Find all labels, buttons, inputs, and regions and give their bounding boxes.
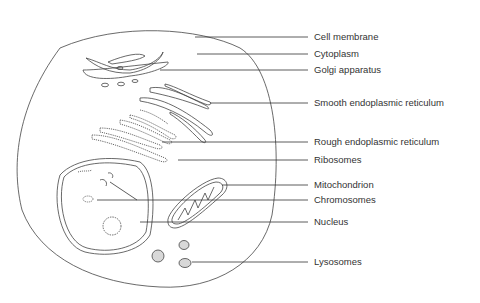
label-mitochondrion: Mitochondrion [314, 180, 374, 190]
mitochondrion-shape [168, 178, 227, 228]
label-golgi-apparatus: Golgi apparatus [314, 65, 381, 75]
cell-membrane-shape [17, 31, 276, 288]
label-rough-er: Rough endoplasmic reticulum [314, 137, 439, 147]
label-chromosomes: Chromosomes [314, 195, 376, 205]
label-cytoplasm: Cytoplasm [314, 49, 359, 59]
nucleus-shape [57, 158, 153, 254]
label-lysosomes: Lysosomes [314, 257, 362, 267]
label-ribosomes: Ribosomes [314, 155, 362, 165]
golgi-apparatus-shape [83, 52, 168, 87]
lysosomes-shape [152, 241, 191, 268]
label-cell-membrane: Cell membrane [314, 32, 378, 42]
leader-chromosome-inner [110, 182, 137, 200]
rough-er-shape [92, 110, 176, 162]
label-nucleus: Nucleus [314, 217, 348, 227]
label-smooth-er: Smooth endoplasmic reticulum [314, 98, 444, 108]
cell-diagram [0, 0, 480, 303]
